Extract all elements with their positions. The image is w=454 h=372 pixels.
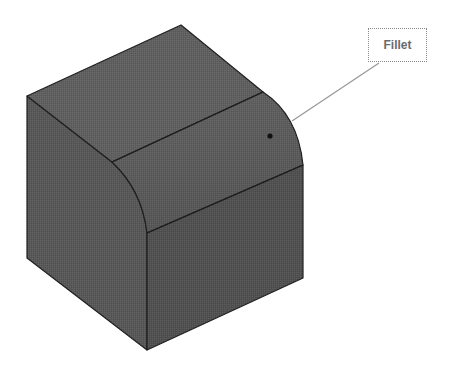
fillet-callout-label: Fillet bbox=[368, 28, 427, 62]
fillet-callout-text: Fillet bbox=[383, 38, 411, 52]
callout-leader-line bbox=[292, 63, 379, 121]
callout-anchor-dot bbox=[267, 133, 272, 138]
